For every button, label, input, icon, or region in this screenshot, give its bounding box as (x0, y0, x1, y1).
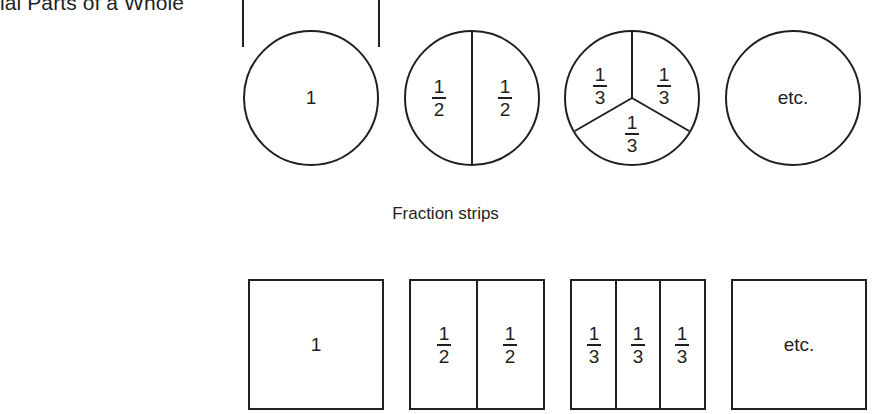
fraction-one-third: 1 3 (587, 324, 602, 366)
fraction-strip-thirds[interactable]: 1 3 1 3 1 3 (570, 279, 706, 410)
strip-thirds-divider-2 (659, 281, 661, 408)
denominator: 2 (437, 346, 452, 366)
denominator: 3 (631, 346, 646, 366)
fraction-strip-halves[interactable]: 1 2 1 2 (409, 279, 545, 410)
whole-value: 1 (311, 334, 322, 356)
numerator: 1 (587, 324, 602, 346)
strip-halves-label-left: 1 2 (411, 281, 477, 408)
numerator: 1 (631, 324, 646, 346)
etc-value: etc. (784, 334, 815, 356)
fraction-strips-row: 1 1 2 1 2 (0, 0, 891, 414)
strip-whole-label-1: 1 (250, 281, 382, 408)
fraction-one-third: 1 3 (631, 324, 646, 366)
fraction-strip-etc[interactable]: etc. (731, 279, 867, 410)
strip-halves-label-right: 1 2 (477, 281, 543, 408)
numerator: 1 (675, 324, 690, 346)
strip-thirds-label-1: 1 3 (572, 281, 616, 408)
fraction-one-half: 1 2 (503, 324, 518, 366)
denominator: 3 (675, 346, 690, 366)
fraction-one-third: 1 3 (675, 324, 690, 366)
strip-halves-divider (476, 281, 478, 408)
fraction-strip-whole[interactable]: 1 (248, 279, 384, 410)
denominator: 2 (503, 346, 518, 366)
strip-thirds-divider-1 (615, 281, 617, 408)
strip-etc-label: etc. (733, 281, 865, 408)
numerator: 1 (437, 324, 452, 346)
numerator: 1 (503, 324, 518, 346)
strip-thirds-label-2: 1 3 (616, 281, 660, 408)
denominator: 3 (587, 346, 602, 366)
fraction-one-half: 1 2 (437, 324, 452, 366)
strip-thirds-label-3: 1 3 (660, 281, 704, 408)
diagram-canvas: ial Parts of a Whole 1 1 2 1 (0, 0, 891, 414)
